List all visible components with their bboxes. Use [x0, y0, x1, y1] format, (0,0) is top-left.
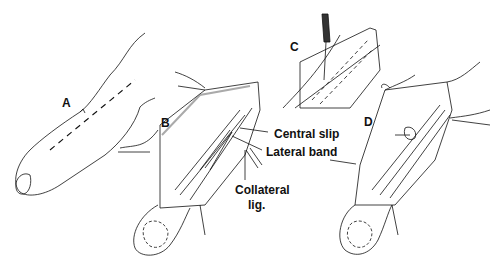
panel-d-repair-drawing [330, 62, 490, 254]
annotation-collateral-lig-line1: Collateral [235, 184, 290, 196]
annotation-lateral-band: Lateral band [266, 146, 337, 158]
panel-b-dissection-drawing [118, 72, 268, 255]
surgical-illustration [0, 0, 498, 265]
panel-label-b: B [161, 116, 170, 130]
annotation-collateral-lig-line2: lig. [248, 199, 265, 211]
panel-a-finger-drawing [16, 33, 155, 195]
panel-c-incision-drawing [283, 14, 380, 108]
annotation-central-slip: Central slip [274, 128, 339, 140]
panel-label-d: D [364, 115, 373, 129]
panel-label-a: A [62, 96, 71, 110]
panel-label-c: C [290, 40, 299, 54]
